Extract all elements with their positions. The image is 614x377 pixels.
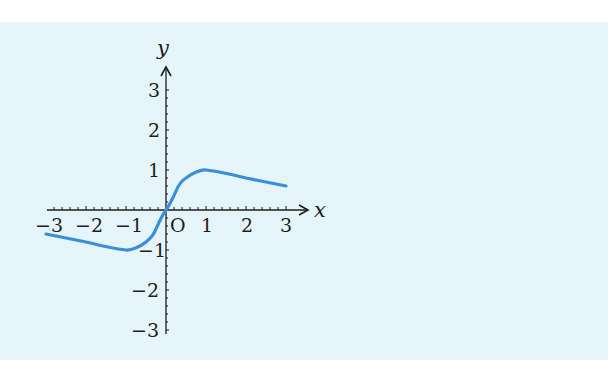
- y-tick-label: −3: [131, 319, 159, 341]
- function-graph: y x O −3 −2 −1 1 2 3 3 2 1 −1 −2 −3: [0, 0, 614, 377]
- y-tick-label: −1: [138, 239, 166, 261]
- x-tick-label: −2: [75, 214, 103, 236]
- origin-label: O: [170, 214, 186, 236]
- x-axis-label: x: [314, 198, 326, 222]
- y-tick-label: −2: [131, 279, 159, 301]
- y-tick-label: 3: [148, 79, 160, 101]
- x-tick-label: −3: [35, 214, 63, 236]
- x-tick-label: 2: [241, 214, 253, 236]
- y-tick-label: 1: [148, 159, 160, 181]
- y-tick-label: 2: [148, 119, 160, 141]
- y-axis-label: y: [156, 36, 170, 60]
- x-tick-label: −1: [115, 214, 143, 236]
- x-tick-label: 1: [201, 214, 213, 236]
- x-tick-label: 3: [280, 214, 292, 236]
